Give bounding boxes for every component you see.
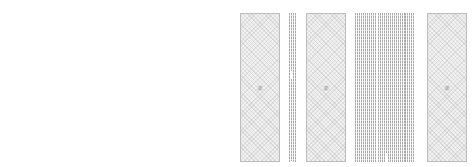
text-line xyxy=(402,13,403,162)
text-line xyxy=(291,79,292,161)
text-line xyxy=(295,13,296,162)
figure-placeholder: Fig xyxy=(427,13,467,162)
figure-placeholder: Fig xyxy=(240,13,280,162)
text-line xyxy=(289,13,290,162)
text-line xyxy=(375,13,376,162)
figure-label: Fig xyxy=(324,85,329,90)
text-line xyxy=(409,13,410,162)
text-line xyxy=(400,13,401,162)
text-line xyxy=(392,13,393,162)
text-line xyxy=(411,13,412,162)
figure-label: Fig xyxy=(445,85,450,90)
text-line xyxy=(291,13,292,71)
text-line xyxy=(378,13,379,162)
text-line xyxy=(382,13,383,162)
text-line xyxy=(390,13,391,162)
text-line xyxy=(361,13,362,162)
text-line xyxy=(394,13,395,162)
text-line xyxy=(398,13,399,162)
text-line xyxy=(405,13,406,162)
document-page-2[interactable]: FigFigFig xyxy=(0,0,474,167)
text-line xyxy=(388,13,389,162)
text-line xyxy=(357,13,358,162)
text-line xyxy=(355,13,356,162)
text-line xyxy=(407,13,408,162)
figure-placeholder: Fig xyxy=(306,13,346,162)
text-line xyxy=(384,13,385,162)
text-line xyxy=(367,13,368,162)
text-line xyxy=(365,13,366,162)
text-line xyxy=(380,13,381,162)
text-line xyxy=(359,13,360,162)
text-line xyxy=(396,13,397,162)
text-line xyxy=(386,13,387,153)
text-line xyxy=(363,13,364,162)
text-line xyxy=(371,13,372,162)
text-line xyxy=(413,13,414,162)
text-line xyxy=(293,13,294,162)
figure-label: Fig xyxy=(258,85,263,90)
text-line xyxy=(373,13,374,162)
text-line xyxy=(369,13,370,162)
